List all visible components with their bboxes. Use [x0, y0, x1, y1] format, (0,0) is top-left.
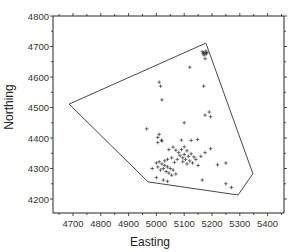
plot-frame — [53, 16, 284, 213]
plus-marker — [150, 167, 154, 171]
x-tick-label: 5400 — [257, 218, 278, 229]
plus-marker — [182, 121, 186, 125]
x-tick-label: 5300 — [229, 218, 250, 229]
plus-marker — [185, 162, 189, 166]
plus-marker — [203, 113, 207, 117]
plus-marker — [174, 172, 178, 176]
data-points — [145, 49, 233, 189]
plus-marker — [189, 152, 193, 156]
x-axis-ticks: 47004800490050005100520053005400 — [59, 13, 281, 229]
plus-marker — [199, 155, 203, 159]
x-tick-label: 5000 — [146, 218, 167, 229]
y-axis-title: Northing — [2, 84, 16, 129]
scatter-chart: 47004800490050005100520053005400 4200430… — [0, 0, 300, 252]
convex-hull-polygon — [69, 43, 253, 195]
plus-marker — [188, 65, 192, 69]
plus-marker — [182, 145, 186, 149]
plus-marker — [207, 110, 211, 114]
plus-marker — [202, 84, 206, 88]
plus-marker — [203, 151, 207, 155]
plus-marker — [170, 173, 174, 177]
y-tick-label: 4800 — [28, 11, 49, 22]
plus-marker — [224, 161, 228, 165]
plus-marker — [200, 178, 204, 182]
y-tick-label: 4500 — [28, 102, 49, 113]
plus-marker — [216, 163, 220, 167]
plus-marker — [155, 176, 159, 180]
plus-marker — [196, 164, 200, 168]
hull-outline — [69, 43, 253, 195]
y-tick-label: 4300 — [28, 163, 49, 174]
plus-marker — [203, 57, 207, 61]
y-tick-label: 4700 — [28, 41, 49, 52]
x-axis-title: Easting — [130, 235, 170, 249]
plus-marker — [156, 165, 160, 169]
plus-marker — [157, 80, 161, 84]
plus-marker — [192, 155, 196, 159]
plus-marker — [166, 180, 170, 184]
plus-marker — [180, 138, 184, 142]
plus-marker — [209, 115, 213, 119]
plus-marker — [188, 159, 192, 163]
plus-marker — [185, 149, 189, 153]
plus-marker — [167, 148, 171, 152]
x-tick-label: 5100 — [174, 218, 195, 229]
plus-marker — [180, 148, 184, 152]
y-axis-ticks: 4200430044004500460047004800 — [28, 11, 287, 205]
plus-marker — [170, 156, 174, 160]
x-tick-label: 5200 — [201, 218, 222, 229]
plus-marker — [230, 186, 234, 190]
y-tick-label: 4400 — [28, 133, 49, 144]
plus-marker — [160, 98, 164, 102]
plus-marker — [159, 84, 163, 88]
plus-marker — [182, 153, 186, 157]
plus-marker — [209, 147, 213, 151]
plus-marker — [181, 160, 185, 164]
plus-marker — [175, 158, 179, 162]
y-tick-label: 4200 — [28, 194, 49, 205]
plus-marker — [224, 182, 228, 186]
plus-marker — [156, 141, 160, 145]
plus-marker — [187, 155, 191, 159]
y-tick-label: 4600 — [28, 72, 49, 83]
x-tick-label: 4900 — [118, 218, 139, 229]
plus-marker — [173, 161, 177, 165]
plus-marker — [171, 145, 175, 149]
plus-marker — [174, 148, 178, 152]
plus-marker — [196, 138, 200, 142]
plus-marker — [145, 127, 149, 131]
plus-marker — [189, 139, 193, 143]
plus-marker — [191, 161, 195, 165]
plus-marker — [162, 178, 166, 182]
x-tick-label: 4800 — [90, 218, 111, 229]
x-tick-label: 4700 — [62, 218, 83, 229]
plus-marker — [194, 158, 198, 162]
